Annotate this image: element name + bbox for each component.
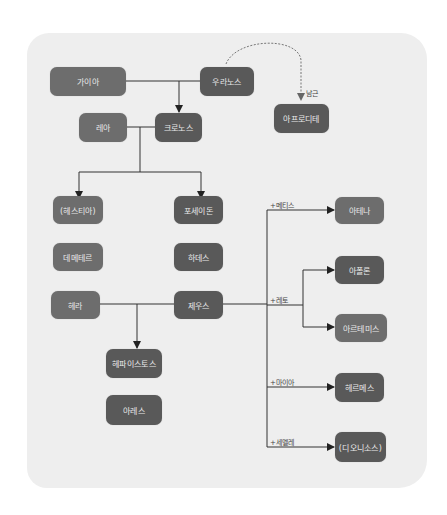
node-hades[interactable]: 하데스: [174, 243, 223, 271]
node-hestia[interactable]: (헤스티아): [53, 196, 103, 224]
node-rhea[interactable]: 레아: [79, 113, 127, 142]
node-dionysus[interactable]: (디오니소스): [335, 432, 386, 462]
node-hera[interactable]: 헤라: [51, 291, 100, 319]
node-athena[interactable]: 아테나: [335, 197, 384, 224]
node-uranus[interactable]: 우라노스: [200, 67, 254, 96]
edge-label-semele: +세멜레: [270, 437, 294, 447]
node-hermes[interactable]: 헤르메스: [335, 373, 384, 402]
edge-label-leto: +레토: [270, 295, 288, 305]
node-hephaestus[interactable]: 헤파이스토스: [106, 349, 162, 378]
edge-label-phallus: 남근: [306, 88, 318, 98]
node-demeter[interactable]: 데메테르: [53, 243, 103, 271]
node-ares[interactable]: 아레스: [106, 395, 162, 425]
node-zeus[interactable]: 제우스: [174, 291, 223, 319]
edge-label-metis: +메티스: [270, 200, 294, 210]
edge-label-maia: +마이아: [270, 377, 294, 387]
node-aphrodite[interactable]: 아프로디테: [274, 104, 329, 133]
node-gaia[interactable]: 가이아: [50, 67, 126, 96]
node-artemis[interactable]: 아르테미스: [335, 314, 387, 342]
node-cronus[interactable]: 크로노스: [155, 113, 202, 142]
node-apollo[interactable]: 아폴론: [335, 256, 384, 284]
node-poseidon[interactable]: 포세이돈: [174, 196, 223, 224]
